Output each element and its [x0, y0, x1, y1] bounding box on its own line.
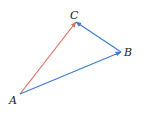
vector-diagram: A B C [0, 0, 147, 115]
point-label-b: B [123, 46, 132, 59]
point-label-c: C [70, 9, 79, 22]
vector-b-to-c [76, 22, 121, 52]
vector-a-to-c [20, 22, 76, 94]
point-label-a: A [8, 94, 17, 107]
vector-a-to-b [20, 52, 121, 94]
